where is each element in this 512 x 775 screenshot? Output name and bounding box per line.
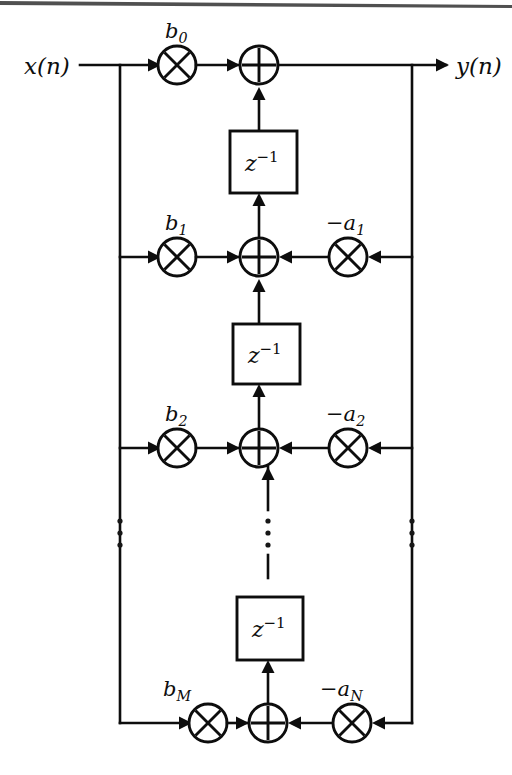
arrowhead-a1-in [368, 251, 381, 264]
output-arrowhead [436, 59, 449, 72]
stage-3: bM −aN [120, 677, 412, 742]
gain-label-a2: −a2 [326, 402, 365, 429]
arrowhead-adder1-in-left [227, 251, 240, 264]
arrowhead-adder2-in-left [227, 442, 240, 455]
gain-label-a1: −a1 [326, 211, 365, 238]
delay-block-1-group: z−1 [230, 87, 297, 238]
output-signal-label: y(n) [455, 53, 502, 79]
stage-1: b1 −a1 [120, 211, 412, 276]
gain-label-b2: b2 [165, 402, 188, 429]
flowgraph-canvas: b0 z−1 [0, 0, 512, 775]
arrowhead-delay2-in [253, 384, 266, 397]
left-column-ellipsis [117, 518, 122, 547]
input-signal-label: x(n) [24, 53, 70, 79]
arrowhead-a2-in [368, 442, 381, 455]
gain-label-b1: b1 [165, 211, 188, 238]
delay-block-3-group: z−1 [237, 597, 303, 704]
arrowhead-adder0-from-delay [253, 87, 266, 100]
arrowhead-delay1-in [253, 193, 266, 206]
gain-label-b0: b0 [165, 19, 188, 46]
arrowhead-aN-in [372, 717, 385, 730]
arrowhead-adder3-in-right [288, 717, 301, 730]
arrowhead-adder3-in-left [236, 717, 249, 730]
stage-2: b2 −a2 [120, 402, 412, 467]
input-bus [80, 59, 161, 724]
signal-flow-diagram: b0 z−1 [0, 0, 512, 775]
arrowhead-adder1-from-delay [253, 279, 266, 292]
arrowhead-delay3-in [262, 660, 275, 673]
arrowhead-adder2-from-delay [262, 467, 275, 480]
delay-block-2-group: z−1 [233, 279, 300, 429]
scan-edge-artifact [0, 1, 512, 8]
gain-label-bM: bM [163, 677, 191, 704]
gain-label-aN: −aN [320, 677, 363, 704]
arrowhead-adder1-in-right [279, 251, 292, 264]
center-column-ellipsis [265, 518, 270, 547]
arrowhead-adder2-in-right [279, 442, 292, 455]
right-column-ellipsis [409, 518, 414, 547]
arrowhead-adder0-in [227, 59, 240, 72]
stage-0: b0 [158, 19, 449, 84]
